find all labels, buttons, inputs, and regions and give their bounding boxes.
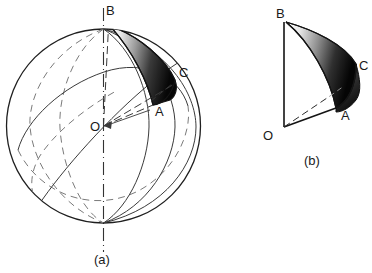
caption-a: (a) [94,252,110,267]
panel-a: B C A O (a) [7,3,201,267]
wedge-edge-OA [284,108,336,127]
geometry-figure: B C A O (a) B C A O [0,0,372,273]
label-b-A: A [341,108,350,123]
oblique-great-circle-2-dashed [32,90,118,206]
label-a-O: O [90,119,100,134]
panel-b: B C A O (b) [263,6,368,168]
label-a-C: C [179,65,188,80]
label-b-O: O [263,128,273,143]
label-a-B: B [106,3,115,18]
wedge-edge-OC-dashed [284,96,330,127]
label-b-C: C [359,58,368,73]
caption-b: (b) [304,153,320,168]
label-b-B: B [276,6,285,21]
figure-container: B C A O (a) B C A O [0,0,372,273]
label-a-A: A [155,104,164,119]
radius-OB [104,27,109,126]
